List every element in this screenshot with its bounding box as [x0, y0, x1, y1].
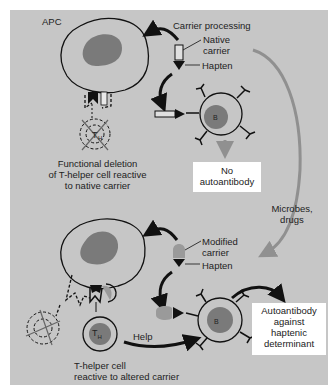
microbes-label-line-1: Microbes,: [262, 203, 322, 214]
no-autoantibody-line-1: No: [197, 165, 257, 176]
native-carrier-hapten: [173, 40, 201, 70]
svg-text:H: H: [98, 135, 102, 141]
deletion-caption-line-3: to native carrier: [40, 180, 155, 191]
b-cell-label-bottom: B: [214, 316, 219, 327]
deletion-caption-line-2: of T-helper cell reactive: [40, 169, 155, 180]
receptor-complex-top: [85, 92, 111, 118]
autoantibody-line-2: against: [256, 316, 322, 327]
hapten-label-bottom: Hapten: [202, 260, 233, 271]
native-carrier-label-2: carrier: [203, 45, 230, 56]
t-helper-caption: T-helper cell reactive to altered carrie…: [74, 360, 179, 382]
b-cell-bottom: [186, 289, 255, 350]
b-cell-label-top: B: [213, 112, 218, 123]
b-receptor-modified-carrier: [156, 306, 184, 320]
autoantibody-box: Autoantibody against haptenic determinan…: [252, 303, 326, 355]
help-label: Help: [133, 331, 153, 342]
hapten-label-top: Hapten: [202, 60, 233, 71]
native-carrier-label-1: Native: [203, 34, 230, 45]
apc-cell-bottom: [61, 219, 145, 289]
apc-label: APC: [42, 16, 62, 27]
arrow-b-to-autoantibody: [232, 287, 280, 298]
t-helper-label-sub: H: [98, 334, 102, 340]
modified-carrier-hapten: [173, 241, 201, 267]
t-helper-caption-line-2: reactive to altered carrier: [74, 371, 179, 382]
modified-carrier-label-1: Modified: [202, 236, 238, 247]
deletion-caption: Functional deletion of T-helper cell rea…: [40, 158, 155, 191]
arrow-carrier-to-b-top: [160, 74, 172, 104]
microbes-label-line-2: drugs: [262, 214, 322, 225]
deleted-t-cell-top: T H: [80, 119, 110, 150]
arrow-carrier-to-b-bottom: [160, 272, 172, 304]
autoantibody-line-4: determinant: [256, 338, 322, 349]
autoantibody-line-1: Autoantibody: [256, 305, 322, 316]
deletion-caption-line-1: Functional deletion: [40, 158, 155, 169]
microbes-drugs-label: Microbes, drugs: [262, 203, 322, 225]
apc-cell-top: [61, 18, 148, 92]
deleted-t-cell-bottom: [26, 310, 60, 345]
no-autoantibody-box: No autoantibody: [193, 162, 261, 192]
carrier-processing-label: Carrier processing: [173, 20, 251, 31]
b-receptor-native-carrier: [155, 109, 185, 119]
autoantibody-line-3: haptenic: [256, 327, 322, 338]
t-helper-label: TH: [92, 328, 102, 343]
modified-carrier-label-2: carrier: [202, 247, 229, 258]
t-helper-caption-line-1: T-helper cell: [74, 360, 179, 371]
arrow-carrier-to-apc-bottom: [150, 229, 177, 240]
no-autoantibody-line-2: autoantibody: [197, 176, 257, 187]
b-cell-top: [186, 84, 255, 145]
